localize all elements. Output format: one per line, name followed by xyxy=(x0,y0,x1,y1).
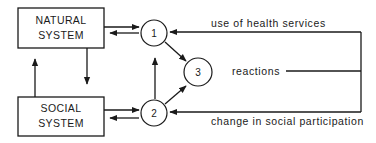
node-1: 1 xyxy=(141,20,167,46)
social-system-box: SOCIAL SYSTEM xyxy=(18,97,104,136)
natural-system-label-line2: SYSTEM xyxy=(38,29,84,41)
arrow-node2-to-node3 xyxy=(165,86,186,104)
node-3: 3 xyxy=(184,58,212,86)
reactions-label: reactions xyxy=(232,65,280,77)
node-2: 2 xyxy=(141,100,167,126)
use-of-health-services-label: use of health services xyxy=(211,17,326,29)
natural-system-box: NATURAL SYSTEM xyxy=(18,8,104,48)
node-3-label: 3 xyxy=(195,67,201,78)
social-system-label-line1: SOCIAL xyxy=(41,102,82,114)
arrow-node1-to-node3 xyxy=(165,42,186,61)
diagram-canvas: NATURAL SYSTEM SOCIAL SYSTEM 1 2 3 xyxy=(0,0,376,143)
node-2-label: 2 xyxy=(151,108,157,119)
natural-system-label-line1: NATURAL xyxy=(35,14,86,26)
social-system-label-line2: SYSTEM xyxy=(38,117,84,129)
change-in-social-participation-label: change in social participation xyxy=(211,115,364,127)
node-1-label: 1 xyxy=(151,28,157,39)
